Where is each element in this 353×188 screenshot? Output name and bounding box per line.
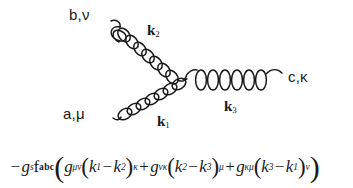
formula-metric-1-indices: μν bbox=[73, 162, 82, 172]
formula-k-3b: k bbox=[286, 157, 293, 177]
formula-metric-2-indices: νκ bbox=[159, 162, 168, 172]
formula-coupling-g: g bbox=[22, 157, 30, 177]
momentum-label-k2: k2 bbox=[147, 22, 160, 39]
formula-plus-1: + bbox=[138, 157, 151, 177]
formula-k-2b: k bbox=[199, 157, 206, 177]
formula-close-paren-2: ) bbox=[211, 154, 219, 180]
formula-k-1b: k bbox=[114, 157, 121, 177]
vertex-factor-formula: −gsfabc(gμν(k1−k2)κ+gνκ(k2−k3)μ+gκμ(k3−k… bbox=[9, 150, 349, 184]
formula-metric-3-indices: κμ bbox=[245, 162, 254, 172]
formula-k-3a: k bbox=[261, 157, 268, 177]
momentum-k3-index: 3 bbox=[232, 105, 237, 115]
formula-metric-2: g bbox=[150, 157, 158, 177]
leg-label-c-kappa: c,κ bbox=[288, 68, 308, 85]
formula-close-paren-1: ) bbox=[126, 154, 134, 180]
formula-close-paren-3: ) bbox=[298, 154, 306, 180]
momentum-label-k1: k1 bbox=[157, 113, 170, 130]
formula-minus-3: − bbox=[273, 157, 286, 177]
formula-open-paren-3: ( bbox=[254, 154, 262, 180]
momentum-k2-index: 2 bbox=[155, 29, 160, 39]
formula-metric-3: g bbox=[236, 157, 244, 177]
formula-close-paren-outer: ) bbox=[310, 150, 320, 184]
formula-minus-2: − bbox=[187, 157, 200, 177]
formula-minus-1: − bbox=[101, 157, 114, 177]
gluon-leg-c-kappa-icon bbox=[185, 70, 282, 90]
diagram-area: b,ν c,κ a,μ k2 k3 k1 bbox=[0, 0, 353, 145]
formula-minus-sign: − bbox=[9, 157, 22, 177]
formula-structure-constant-indices: abc bbox=[39, 162, 54, 172]
momentum-label-k3: k3 bbox=[224, 98, 237, 115]
formula-k-2a: k bbox=[175, 157, 182, 177]
momentum-k1-index: 1 bbox=[165, 120, 170, 130]
feynman-diagram-figure: b,ν c,κ a,μ k2 k3 k1 −gsfabc(gμν(k1−k2)κ… bbox=[0, 0, 353, 188]
formula-open-paren-2: ( bbox=[167, 154, 175, 180]
leg-label-b-nu: b,ν bbox=[69, 6, 90, 23]
formula-plus-2: + bbox=[224, 157, 237, 177]
formula-k-1a: k bbox=[89, 157, 96, 177]
formula-metric-1: g bbox=[64, 157, 72, 177]
leg-label-a-mu: a,μ bbox=[63, 105, 85, 122]
formula-open-paren-1: ( bbox=[81, 154, 89, 180]
formula-open-paren-outer: ( bbox=[54, 150, 64, 184]
